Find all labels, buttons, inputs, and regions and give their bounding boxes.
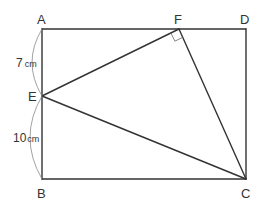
label-C: C: [241, 186, 250, 201]
segment-EF: [42, 29, 179, 96]
label-E: E: [28, 89, 37, 104]
length-label-AE: 7cm: [16, 56, 37, 70]
length-value-AE: 7: [16, 56, 23, 70]
length-unit-EB: cm: [27, 134, 39, 144]
label-A: A: [37, 12, 46, 27]
length-label-EB: 10cm: [13, 131, 39, 145]
label-B: B: [37, 186, 46, 201]
segment-EC: [42, 96, 246, 179]
label-F: F: [174, 12, 182, 27]
geometry-figure: A D F E B C 7cm 10cm: [0, 0, 264, 208]
label-D: D: [240, 12, 249, 27]
length-unit-AE: cm: [25, 59, 37, 69]
length-value-EB: 10: [13, 131, 27, 145]
